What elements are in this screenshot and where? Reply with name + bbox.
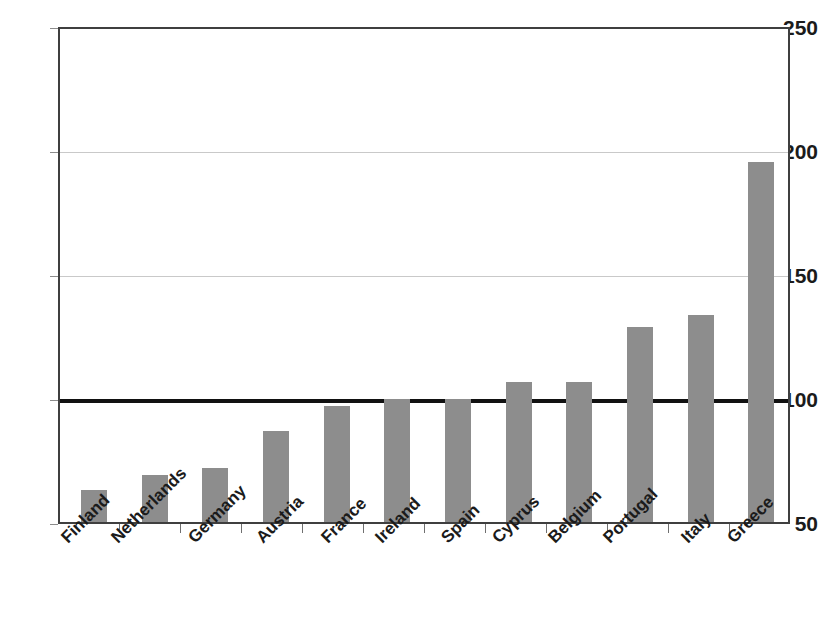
y-tick-mark-150 xyxy=(50,276,58,277)
bar-chart: 250 200 150 100 50 xyxy=(0,0,818,629)
x-tick-mark-3 xyxy=(241,524,242,533)
bar-italy[interactable] xyxy=(688,315,714,522)
bar-greece[interactable] xyxy=(748,162,774,522)
x-tick-mark-5 xyxy=(363,524,364,533)
plot-area xyxy=(58,27,790,524)
x-tick-mark-6 xyxy=(424,524,425,533)
y-tick-mark-100 xyxy=(50,400,58,401)
x-tick-mark-7 xyxy=(485,524,486,533)
x-tick-mark-2 xyxy=(180,524,181,533)
reference-line-100 xyxy=(60,399,788,403)
y-tick-mark-250 xyxy=(50,28,58,29)
gridline-150 xyxy=(60,276,788,277)
gridline-200 xyxy=(60,152,788,153)
y-tick-mark-50 xyxy=(50,524,58,525)
y-tick-mark-200 xyxy=(50,152,58,153)
x-tick-mark-4 xyxy=(302,524,303,533)
x-tick-mark-10 xyxy=(668,524,669,533)
